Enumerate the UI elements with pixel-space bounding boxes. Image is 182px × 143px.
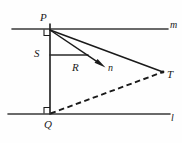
geometry-figure: P S R n T Q m l <box>0 0 182 143</box>
label-line-m: m <box>170 20 177 30</box>
label-point-q: Q <box>44 119 52 130</box>
right-angle-marker-p <box>44 30 50 36</box>
label-line-l: l <box>171 113 174 123</box>
right-angle-marker-q <box>44 108 50 114</box>
label-direction-n: n <box>108 63 113 73</box>
segment-pt <box>50 30 163 72</box>
label-point-p: P <box>40 12 47 23</box>
point-marker-t <box>162 71 165 74</box>
label-point-r: R <box>72 62 79 73</box>
label-point-s: S <box>34 48 40 59</box>
dashed-segment-qt <box>51 72 164 114</box>
geometry-canvas <box>0 0 182 143</box>
label-point-t: T <box>167 69 173 80</box>
ray-p-to-n <box>50 30 100 64</box>
